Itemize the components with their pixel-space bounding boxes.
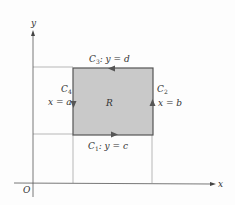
x-axis-label: x <box>218 179 223 189</box>
y-axis-label: y <box>30 18 37 28</box>
diagram-canvas: y x O R C3: y = d C1: y = c C4 x = a C2 … <box>0 0 235 205</box>
green-theorem-rectangle-diagram: y x O R C3: y = d C1: y = c C4 x = a C2 … <box>0 0 235 205</box>
c4-equation-label: x = a <box>48 97 72 107</box>
c2-equation-label: x = b <box>158 98 182 108</box>
c2-name-label: C2 <box>157 84 168 95</box>
x-axis <box>14 183 212 184</box>
c1-label: C1: y = c <box>88 141 128 152</box>
x-axis-arrow-icon <box>210 182 216 186</box>
region-r <box>73 68 153 135</box>
y-axis-arrow-icon <box>31 30 35 36</box>
origin-label: O <box>23 185 31 195</box>
region-label: R <box>105 98 113 108</box>
c3-label: C3: y = d <box>89 54 130 65</box>
c4-name-label: C4 <box>61 84 72 95</box>
